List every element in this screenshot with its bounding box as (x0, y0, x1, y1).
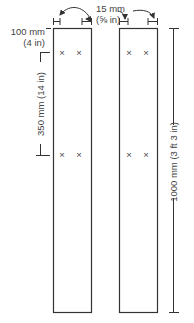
screw-mark-icon: × (59, 47, 65, 58)
screw-mark-icon: × (76, 47, 82, 58)
top-offset-metric-label: 100 mm (11, 26, 45, 37)
screw-mark-icon: × (126, 47, 132, 58)
edge-offset-imperial-label: (⅝ in) (96, 14, 120, 25)
left-board: × × × × (54, 29, 92, 313)
screw-spacing-label: 350 mm (14 in) (35, 72, 46, 136)
screw-mark-icon: × (143, 149, 149, 160)
diagram-canvas: × × × × × × × × 15 mm (⅝ in) 100 mm (4 i… (0, 0, 194, 323)
screw-mark-icon: × (76, 149, 82, 160)
screw-mark-icon: × (143, 47, 149, 58)
edge-offset-metric-label: 15 mm (96, 3, 125, 14)
right-board: × × × × (120, 29, 158, 313)
screw-mark-icon: × (126, 149, 132, 160)
screw-mark-icon: × (59, 149, 65, 160)
top-offset-imperial-label: (4 in) (23, 37, 45, 48)
board-length-label: 1000 mm (3 ft 3 in) (168, 122, 179, 202)
